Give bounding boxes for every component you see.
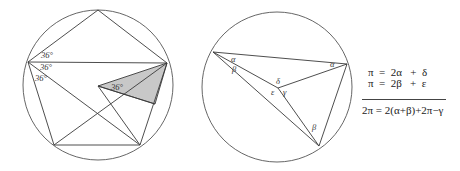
angle-label-alpha: α bbox=[231, 54, 236, 64]
angle-label-epsilon: ε bbox=[271, 87, 275, 97]
angle-label-delta: δ bbox=[276, 76, 281, 86]
equation-line-2: π = 2β + ε bbox=[368, 78, 426, 89]
angle-label-gamma: γ bbox=[283, 87, 287, 97]
chord-diagonal bbox=[213, 52, 319, 146]
left-figure: 36° 36° 36° 36° bbox=[23, 10, 173, 160]
segment-to-center bbox=[213, 52, 278, 88]
angle-label: 36° bbox=[39, 62, 53, 72]
angle-label-beta: β bbox=[231, 64, 237, 74]
chord-right bbox=[319, 64, 347, 146]
angle-label-alpha: α bbox=[330, 59, 335, 69]
shaded-triangle bbox=[98, 63, 167, 104]
angle-label: 36° bbox=[110, 82, 124, 92]
center-to-right bbox=[278, 64, 347, 88]
angle-label-beta: β bbox=[311, 122, 317, 132]
equation-rule bbox=[362, 99, 446, 100]
angle-label: 36° bbox=[34, 73, 48, 83]
angle-label: 36° bbox=[40, 50, 54, 60]
equation-result: 2π = 2(α+β)+2π−γ bbox=[362, 105, 443, 116]
middle-figure: α β α δ ε γ β bbox=[202, 12, 352, 162]
